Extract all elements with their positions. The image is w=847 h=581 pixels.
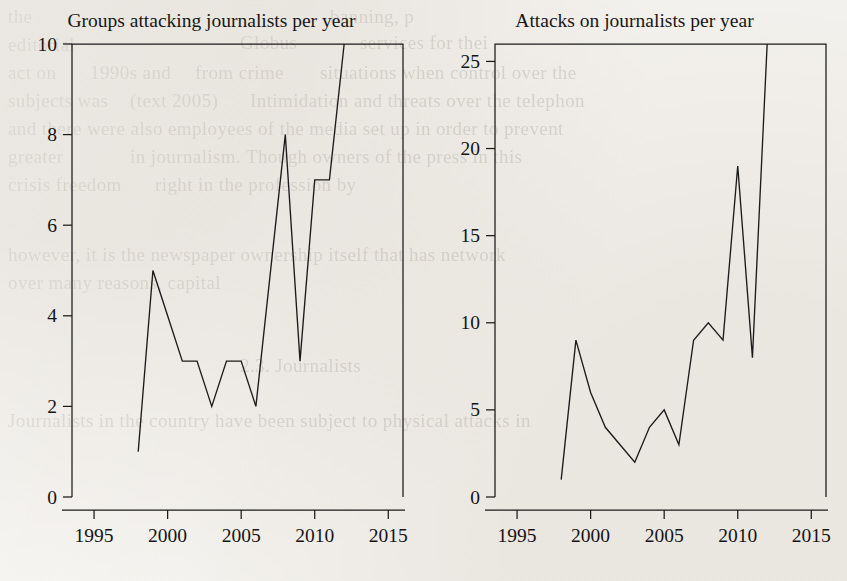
left-x-tick-label-2005: 2005 xyxy=(222,525,261,546)
left-y-tick-label-8: 8 xyxy=(47,124,57,145)
right-y-tick-label-10: 10 xyxy=(461,312,481,333)
right-y-tick-label-20: 20 xyxy=(461,138,481,159)
right-plot-frame xyxy=(495,44,826,497)
left-y-tick-label-2: 2 xyxy=(47,396,57,417)
chart-panel-groups-attacking-journalists: Groups attacking journalists per year 02… xyxy=(0,0,423,581)
left-y-tick-label-10: 10 xyxy=(38,34,58,55)
right-data-series xyxy=(561,44,767,480)
left-plot-frame xyxy=(72,44,403,497)
left-x-tick-label-1995: 1995 xyxy=(75,525,114,546)
left-y-tick-label-0: 0 xyxy=(47,487,57,508)
line-chart-attacks-on-journalists: 051015202519952000200520102015 xyxy=(423,0,846,581)
right-x-tick-label-2015: 2015 xyxy=(792,525,831,546)
right-x-tick-label-2010: 2010 xyxy=(718,525,757,546)
right-x-tick-label-1995: 1995 xyxy=(498,525,537,546)
right-y-tick-label-15: 15 xyxy=(461,225,481,246)
figure-container: Groups attacking journalists per year 02… xyxy=(0,0,847,581)
line-chart-groups-attacking-journalists: 024681019952000200520102015 xyxy=(0,0,423,581)
left-x-tick-label-2010: 2010 xyxy=(295,525,334,546)
left-data-series xyxy=(138,44,344,452)
chart-panel-attacks-on-journalists: Attacks on journalists per year 05101520… xyxy=(423,0,846,581)
right-y-tick-label-25: 25 xyxy=(461,51,481,72)
right-x-tick-label-2000: 2000 xyxy=(571,525,610,546)
left-y-tick-label-4: 4 xyxy=(47,305,57,326)
right-x-tick-label-2005: 2005 xyxy=(645,525,684,546)
left-x-tick-label-2000: 2000 xyxy=(148,525,187,546)
left-x-tick-label-2015: 2015 xyxy=(369,525,408,546)
right-y-tick-label-0: 0 xyxy=(470,487,480,508)
left-y-tick-label-6: 6 xyxy=(47,215,57,236)
right-y-tick-label-5: 5 xyxy=(470,399,480,420)
